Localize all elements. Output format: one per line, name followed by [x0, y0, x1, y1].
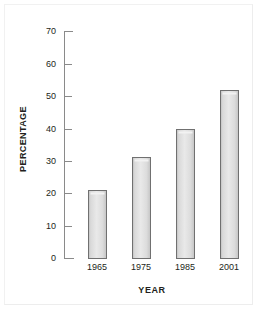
x-tick-label-1985: 1985	[163, 262, 207, 272]
x-tick-label-1965: 1965	[75, 262, 119, 272]
y-tick-label-40: 40	[30, 124, 56, 134]
bar-1965	[89, 191, 107, 259]
y-tick-label-50: 50	[30, 91, 56, 101]
y-tick-label-30: 30	[30, 156, 56, 166]
bar-2001	[221, 91, 239, 259]
bars	[89, 91, 239, 259]
y-tick-label-0: 0	[30, 253, 56, 263]
y-tick-label-70: 70	[30, 26, 56, 36]
y-tick-label-10: 10	[30, 221, 56, 231]
y-tick-label-60: 60	[30, 59, 56, 69]
bar-chart-figure: 70 60 50 40 30 20 10 0 1965 1975 1985 20…	[0, 0, 258, 310]
y-axis-title: PERCENTAGE	[18, 84, 28, 194]
y-tick-marks	[65, 65, 72, 227]
x-tick-label-1975: 1975	[119, 262, 163, 272]
axis-lines	[65, 32, 74, 259]
x-axis-title: YEAR	[64, 285, 240, 295]
x-tick-label-2001: 2001	[207, 262, 251, 272]
bar-1985	[177, 130, 195, 259]
bar-1975	[133, 158, 151, 259]
y-tick-label-20: 20	[30, 188, 56, 198]
